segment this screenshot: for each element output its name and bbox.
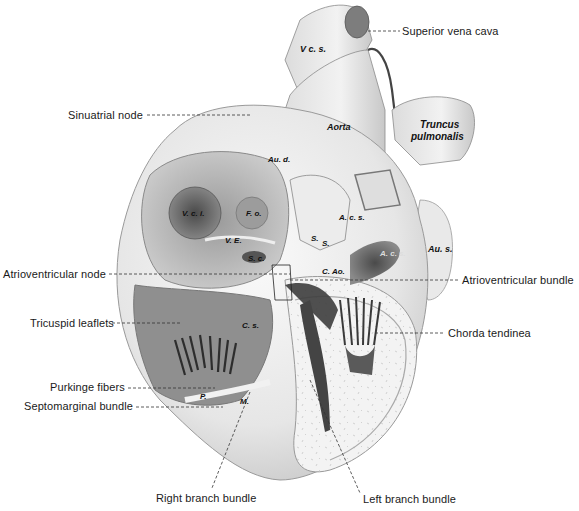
label-acs-upper: A. c. s.: [339, 213, 365, 223]
label-vena-cava-inferior: V. c. i.: [182, 209, 204, 219]
callout-purkinge-fibers: Purkinge fibers: [50, 381, 125, 393]
callout-atrioventricular-bundle: Atrioventricular bundle: [462, 274, 574, 286]
label-p: P.: [200, 392, 207, 402]
heart-conduction-diagram: Superior vena cava Sinuatrial node Atrio…: [0, 0, 579, 511]
label-s-1: S.: [311, 234, 319, 244]
callout-right-branch-bundle: Right branch bundle: [156, 492, 256, 504]
label-m: M.: [240, 397, 249, 407]
callout-left-branch-bundle: Left branch bundle: [363, 493, 456, 505]
label-cs-ventricle: C. s.: [242, 321, 259, 331]
label-s-2: S.: [322, 239, 330, 249]
label-pulmonalis: pulmonalis: [411, 131, 464, 142]
callout-sinuatrial-node: Sinuatrial node: [68, 109, 143, 121]
label-aorta: Aorta: [327, 122, 351, 132]
callout-superior-vena-cava: Superior vena cava: [402, 25, 499, 37]
label-valvula-eustachii: V. E.: [225, 236, 242, 246]
label-vena-cava-superior: V c. s.: [300, 44, 326, 54]
callout-chorda-tendinea: Chorda tendinea: [448, 327, 531, 339]
label-conus-aortae: C. Ao.: [322, 267, 345, 277]
label-acs-lower: A. c. s.: [380, 249, 406, 259]
callout-atrioventricular-node: Atrioventricular node: [3, 268, 106, 280]
leader-left-branch-bundle: [310, 380, 360, 493]
callout-septomarginal-bundle: Septomarginal bundle: [24, 400, 133, 412]
label-sinus-coronarius: S. c.: [248, 254, 264, 264]
label-auricula-dextra: Au. d.: [268, 155, 290, 165]
leader-lines: [0, 0, 579, 511]
label-auricula-sinistra: Au. s.: [428, 244, 453, 254]
label-truncus: Truncus: [420, 119, 459, 130]
label-fossa-ovalis: F. o.: [246, 209, 262, 219]
callout-tricuspid-leaflets: Tricuspid leaflets: [30, 317, 114, 329]
